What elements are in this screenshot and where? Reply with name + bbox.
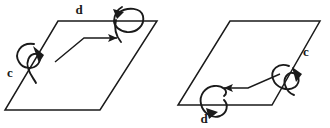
- left-parallelogram-diagram: c d: [5, 2, 157, 110]
- rotation-arrow-c: [272, 65, 302, 95]
- parallelogram-plane: [178, 21, 320, 105]
- label-d: d: [200, 111, 208, 126]
- diagram-svg: c d c d: [0, 0, 330, 128]
- right-parallelogram-diagram: c d: [178, 21, 320, 126]
- bent-translation-arrow: [55, 38, 117, 62]
- figure-canvas: c d c d: [0, 0, 330, 128]
- label-c: c: [303, 44, 309, 59]
- rotation-arrow-d: [113, 7, 143, 42]
- label-d: d: [75, 2, 83, 17]
- label-c: c: [7, 65, 13, 80]
- rotation-arrow-c: [17, 44, 44, 83]
